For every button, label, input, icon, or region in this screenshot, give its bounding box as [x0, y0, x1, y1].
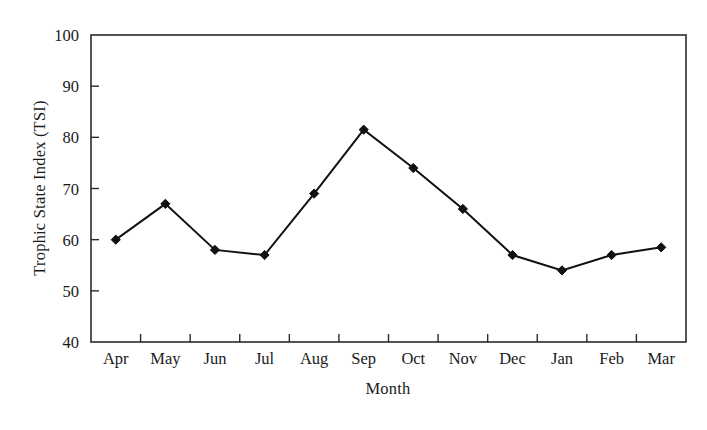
line-chart: 405060708090100 AprMayJunJulAugSepOctNov… [0, 0, 707, 430]
y-tick-label: 100 [54, 26, 79, 45]
x-tick-label: Oct [401, 349, 425, 368]
y-tick-label: 80 [63, 128, 80, 147]
x-tick-label: Mar [647, 349, 675, 368]
x-tick-label: May [150, 349, 181, 368]
y-axis-title: Trophic State Index (TSI) [30, 100, 49, 275]
x-tick-label: Jan [551, 349, 573, 368]
y-tick-label: 70 [63, 180, 80, 199]
x-tick-label: Nov [449, 349, 478, 368]
chart-figure: 405060708090100 AprMayJunJulAugSepOctNov… [0, 0, 707, 430]
x-tick-label: Aug [300, 349, 328, 368]
x-tick-label: Sep [351, 349, 376, 368]
x-tick-label: Feb [599, 349, 624, 368]
y-tick-label: 50 [63, 282, 80, 301]
y-tick-label: 60 [63, 231, 80, 250]
y-tick-label: 90 [63, 77, 80, 96]
x-axis-title: Month [365, 379, 411, 398]
x-tick-label: Dec [499, 349, 526, 368]
x-tick-label: Jun [203, 349, 226, 368]
y-tick-label: 40 [63, 333, 80, 352]
x-tick-label: Apr [103, 349, 129, 368]
x-tick-label: Jul [255, 349, 275, 368]
